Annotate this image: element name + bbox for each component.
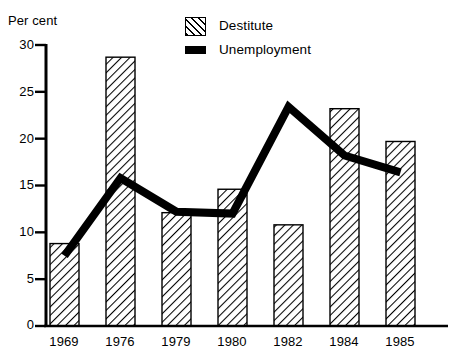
y-axis-ticks [35, 45, 46, 326]
chart-plot-area [0, 0, 452, 360]
bar-1969 [50, 244, 79, 326]
chart-container: Per cent Destitute Unemployment 30 25 20… [0, 0, 452, 360]
bar-1982 [274, 225, 303, 326]
bar-1984 [330, 109, 359, 326]
bar-1979 [162, 213, 191, 326]
bar-series-destitute [50, 57, 415, 326]
